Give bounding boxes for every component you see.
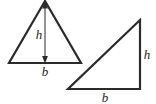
right-triangle-outline: [68, 20, 140, 89]
figure-canvas: [0, 0, 156, 104]
right-triangle-base-label: b: [99, 91, 111, 104]
right-triangle-height-label: h: [141, 48, 153, 61]
isosceles-height-label: h: [33, 28, 45, 41]
isosceles-base-label: b: [39, 65, 51, 78]
triangle-diagram-figure: h b h b: [0, 0, 156, 104]
